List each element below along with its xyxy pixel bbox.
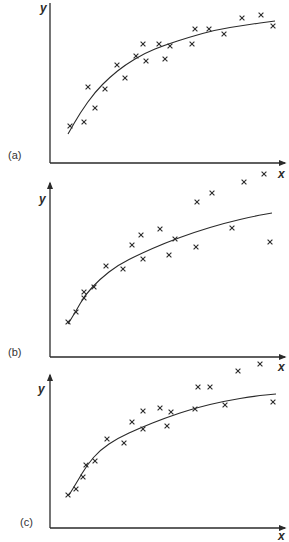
data-point-cross [240,16,245,21]
figure-scatter-panels: yx(a)yx(b)yx(c) [0,0,289,542]
data-point-cross [141,409,146,414]
data-point-cross [104,264,109,269]
data-point-cross [82,296,87,301]
data-point-cross [130,243,135,248]
data-point-cross [167,253,172,258]
data-point-cross [271,400,276,405]
data-point-cross [262,172,267,177]
data-point-cross [74,487,79,492]
data-point-cross [190,42,195,47]
data-point-cross [223,403,228,408]
chart-panel-c: yx(c) [20,362,286,542]
data-point-cross [195,200,200,205]
data-point-cross [268,240,273,245]
data-point-cross [194,245,199,250]
data-point-cross [208,385,213,390]
data-point-cross [158,227,163,232]
data-point-cross [144,59,149,64]
data-point-cross [134,54,139,59]
chart-panel-a: yx(a) [8,1,286,181]
data-point-cross [207,27,212,32]
data-point-cross [82,290,87,295]
data-point-cross [168,44,173,49]
x-axis-label: x [277,529,286,542]
y-axis-label: y [39,1,48,15]
data-point-cross [121,267,126,272]
data-point-cross [157,42,162,47]
data-point-cross [158,406,163,411]
data-point-cross [105,437,110,442]
data-point-cross [93,459,98,464]
data-point-cross [115,63,120,68]
fit-curve [68,21,275,134]
data-point-cross [196,385,201,390]
fit-curve [68,213,272,324]
data-point-cross [66,493,71,498]
data-point-cross [169,410,174,415]
chart-panel-b: yx(b) [8,172,286,374]
data-point-cross [139,233,144,238]
data-point-cross [258,362,263,367]
y-axis-label: y [38,192,47,206]
data-point-cross [230,226,235,231]
data-point-cross [93,106,98,111]
data-point-cross [163,57,168,62]
data-point-cross [141,257,146,262]
panel-label: (b) [8,346,21,358]
y-axis-label: y [37,382,46,396]
data-point-cross [103,87,108,92]
x-axis-label: x [277,360,286,374]
panels-container: yx(a)yx(b)yx(c) [8,1,286,542]
x-axis-label: x [277,167,286,181]
data-point-cross [82,120,87,125]
data-point-cross [130,420,135,425]
data-point-cross [122,441,127,446]
data-point-cross [123,76,128,81]
panel-label: (a) [8,149,21,161]
data-point-cross [141,42,146,47]
data-point-cross [236,369,241,374]
data-point-cross [193,27,198,32]
data-point-cross [271,24,276,29]
data-point-cross [222,32,227,37]
data-point-cross [68,124,73,129]
data-point-cross [210,191,215,196]
data-point-cross [259,13,264,18]
data-point-cross [165,424,170,429]
data-point-cross [242,180,247,185]
data-point-cross [81,475,86,480]
fit-curve [69,394,276,495]
panel-label: (c) [20,516,33,528]
data-point-cross [86,85,91,90]
